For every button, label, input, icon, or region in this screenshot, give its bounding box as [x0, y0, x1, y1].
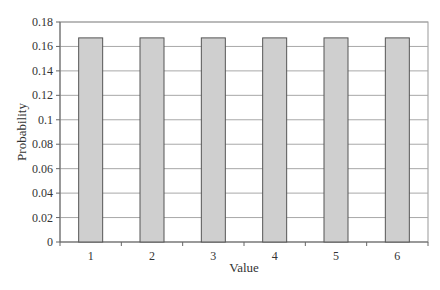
y-axis-title: Probability [14, 103, 29, 161]
x-tick-label: 2 [149, 249, 155, 263]
y-tick-label: 0.12 [32, 88, 53, 102]
x-tick-label: 5 [333, 249, 339, 263]
y-tick-label: 0 [47, 235, 53, 249]
x-tick-label: 6 [394, 249, 400, 263]
y-tick-label: 0.1 [38, 113, 53, 127]
probability-bar-chart: 00.020.040.060.080.10.120.140.160.181234… [0, 0, 440, 290]
bar-4 [263, 38, 287, 242]
bar-3 [201, 38, 225, 242]
plot-area: 00.020.040.060.080.10.120.140.160.181234… [32, 15, 428, 263]
y-tick-label: 0.02 [32, 211, 53, 225]
bar-5 [324, 38, 348, 242]
bar-6 [385, 38, 409, 242]
bar-2 [140, 38, 164, 242]
y-tick-label: 0.08 [32, 137, 53, 151]
x-tick-label: 1 [88, 249, 94, 263]
x-tick-label: 4 [272, 249, 278, 263]
bar-1 [79, 38, 103, 242]
y-tick-label: 0.16 [32, 39, 53, 53]
x-tick-label: 3 [210, 249, 216, 263]
y-tick-label: 0.14 [32, 64, 53, 78]
y-tick-label: 0.18 [32, 15, 53, 29]
y-tick-label: 0.06 [32, 162, 53, 176]
y-tick-label: 0.04 [32, 186, 53, 200]
x-axis-title: Value [229, 260, 259, 275]
plot-frame [60, 22, 428, 242]
